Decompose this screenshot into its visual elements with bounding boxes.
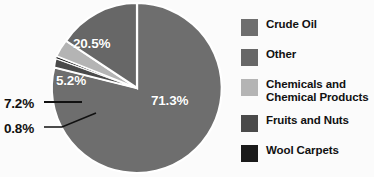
legend-item-wool-carpets[interactable]: Wool Carpets — [241, 144, 339, 162]
legend-swatch-icon — [241, 145, 258, 162]
pie-chart: 71.3% 20.5% 5.2% 7.2% 0.8% — [0, 0, 240, 177]
legend-label: Fruits and Nuts — [266, 114, 349, 127]
legend: Crude Oil Other Chemicals and Chemical P… — [240, 0, 374, 177]
legend-item-other[interactable]: Other — [241, 48, 296, 66]
legend-label: Crude Oil — [266, 18, 317, 31]
pie-value-label-chemicals: 5.2% — [56, 73, 86, 88]
pie-value-label-other: 20.5% — [73, 36, 110, 51]
legend-item-crude-oil[interactable]: Crude Oil — [241, 18, 317, 36]
legend-swatch-icon — [241, 19, 258, 36]
chart-canvas: 71.3% 20.5% 5.2% 7.2% 0.8% Crude Oil Oth… — [0, 0, 374, 177]
legend-label: Wool Carpets — [266, 144, 339, 157]
pie-value-label-crude-oil: 71.3% — [151, 93, 188, 108]
legend-item-chemicals-and-chemical-products[interactable]: Chemicals and Chemical Products — [241, 78, 368, 104]
legend-swatch-icon — [241, 115, 258, 132]
legend-label: Chemicals and Chemical Products — [266, 78, 368, 104]
pie-value-label-wool-carpets: 0.8% — [4, 121, 34, 136]
pie-svg — [0, 0, 240, 177]
legend-item-fruits-and-nuts[interactable]: Fruits and Nuts — [241, 114, 349, 132]
legend-label: Other — [266, 48, 296, 61]
pie-value-label-fruits-and-nuts: 7.2% — [4, 96, 34, 111]
legend-swatch-icon — [241, 79, 258, 96]
legend-swatch-icon — [241, 49, 258, 66]
